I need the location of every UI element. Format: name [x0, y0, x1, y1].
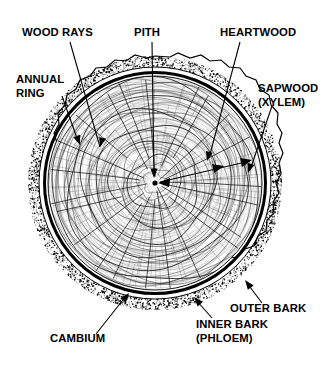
label-sapwood-xylem: SAPWOOD(XYLEM) — [258, 82, 318, 108]
label-line: HEARTWOOD — [220, 26, 296, 38]
leader-outer-bark — [245, 280, 262, 303]
label-line: SAPWOOD — [258, 82, 318, 94]
label-outer-bark: OUTER BARK — [230, 302, 307, 314]
label-annual-ring: ANNUALRING — [16, 73, 64, 99]
arrowhead-outer-bark — [245, 280, 254, 290]
label-inner-bark-phloem: INNER BARK(PHLOEM) — [196, 318, 269, 344]
label-line: PITH — [134, 26, 160, 38]
label-line: WOOD RAYS — [22, 26, 93, 38]
label-line: (PHLOEM) — [196, 332, 253, 344]
label-cambium: CAMBIUM — [50, 332, 105, 344]
label-line: ANNUAL — [16, 73, 64, 85]
label-wood-rays: WOOD RAYS — [22, 26, 93, 38]
tree-trunk-diagram: WOOD RAYSPITHHEARTWOODANNUALRINGSAPWOOD(… — [0, 0, 333, 370]
label-line: INNER BARK — [196, 318, 269, 330]
label-heartwood: HEARTWOOD — [220, 26, 296, 38]
pith-center — [152, 180, 157, 185]
tree-cross-section-figure: WOOD RAYSPITHHEARTWOODANNUALRINGSAPWOOD(… — [0, 0, 333, 370]
label-line: OUTER BARK — [230, 302, 307, 314]
label-line: RING — [16, 87, 45, 99]
leader-cambium — [96, 293, 129, 334]
label-line: CAMBIUM — [50, 332, 105, 344]
label-pith: PITH — [134, 26, 160, 38]
label-line: (XYLEM) — [258, 96, 305, 108]
leader-inner-bark-phloem — [194, 297, 212, 318]
